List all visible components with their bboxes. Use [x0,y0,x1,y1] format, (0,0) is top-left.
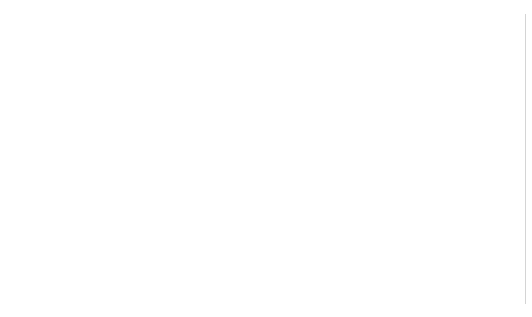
timeline-figure [0,0,532,317]
frame-right-border [525,14,526,304]
timeline-canvas [0,0,532,317]
